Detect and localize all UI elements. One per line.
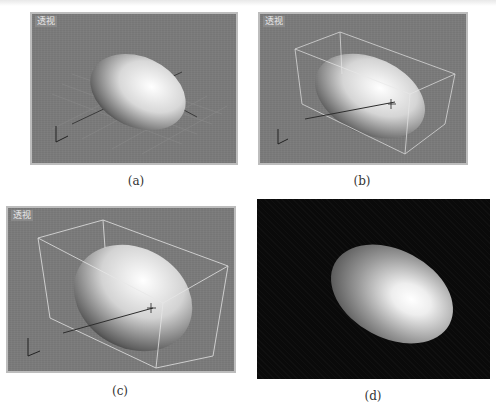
scene-d — [257, 199, 490, 379]
axis-gizmo-icon — [56, 126, 68, 142]
caption-a: (a) — [116, 174, 156, 188]
scene-c — [8, 208, 236, 373]
viewport-panel-c[interactable]: 透视 — [6, 206, 236, 373]
viewport-label[interactable]: 透视 — [35, 16, 57, 27]
viewport-panel-b[interactable]: 透视 — [258, 12, 468, 165]
axis-gizmo-icon — [28, 338, 40, 356]
caption-c: (c) — [100, 384, 140, 398]
rendered-ellipsoid — [314, 225, 470, 364]
viewport-label[interactable]: 透视 — [263, 16, 285, 27]
scene-b — [260, 14, 468, 165]
render-panel-d — [257, 199, 490, 379]
caption-b: (b) — [342, 174, 382, 188]
viewport-label[interactable]: 透视 — [11, 210, 33, 221]
cropped-text-strip — [0, 0, 496, 6]
caption-d: (d) — [353, 389, 393, 403]
axis-gizmo-icon — [278, 129, 288, 144]
scene-a — [32, 14, 238, 165]
viewport-panel-a[interactable]: 透视 — [30, 12, 238, 165]
